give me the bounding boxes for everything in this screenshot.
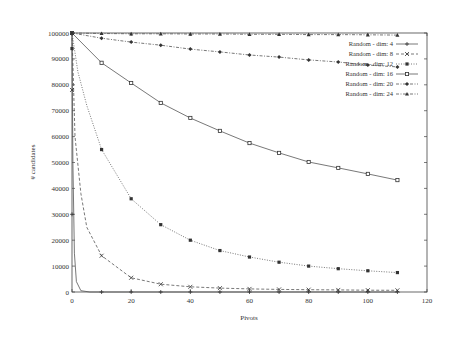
y-tick-label: 50000: [52, 159, 70, 167]
x-tick-label: 100: [363, 297, 374, 305]
line-chart: 0100002000030000400005000060000700008000…: [0, 0, 450, 337]
y-tick-label: 80000: [52, 81, 70, 89]
y-tick-label: 60000: [52, 133, 70, 141]
x-tick-label: 40: [187, 297, 195, 305]
x-axis-title: Pivots: [240, 314, 258, 322]
y-tick-label: 90000: [52, 55, 70, 63]
legend-label: Random - dim: 20: [346, 80, 393, 87]
x-tick-label: 20: [128, 297, 136, 305]
x-tick-label: 120: [422, 297, 433, 305]
y-tick-label: 40000: [52, 185, 70, 193]
legend: Random - dim: 4Random - dim: 8Random - d…: [346, 40, 418, 97]
legend-label: Random - dim: 12: [346, 60, 393, 67]
y-axis-title: # candidates: [29, 144, 37, 179]
legend-label: Random - dim: 8: [349, 50, 393, 57]
series-random-dim-24: [70, 31, 399, 37]
y-tick-label: 10000: [52, 263, 70, 271]
x-tick-label: 80: [305, 297, 313, 305]
y-tick-label: 100000: [48, 30, 70, 38]
x-tick-label: 60: [246, 297, 254, 305]
legend-label: Random - dim: 4: [349, 40, 394, 47]
y-tick-label: 0: [66, 289, 70, 297]
y-tick-label: 70000: [52, 107, 70, 115]
x-tick-label: 0: [70, 297, 74, 305]
y-tick-label: 30000: [52, 211, 70, 219]
legend-label: Random - dim: 16: [346, 70, 394, 77]
legend-label: Random - dim: 24: [346, 90, 394, 97]
y-tick-label: 20000: [52, 237, 70, 245]
